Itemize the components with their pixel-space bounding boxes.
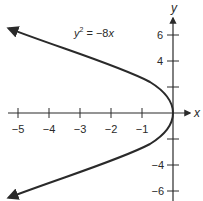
- equation-label: y2 = −8x: [73, 26, 114, 39]
- parabola-chart: −5 −4 −3 −2 −1 6 4 −4 −6 y x y2 = −8x: [0, 0, 203, 201]
- x-tick-label: −1: [136, 123, 149, 135]
- x-tick-label: −3: [74, 123, 87, 135]
- y-tick-label: 4: [157, 55, 163, 67]
- x-tick-labels: −5 −4 −3 −2 −1: [12, 123, 149, 135]
- x-tick-label: −2: [105, 123, 118, 135]
- x-tick-label: −5: [12, 123, 25, 135]
- x-axis-label: x: [193, 106, 201, 120]
- y-tick-label: 6: [157, 29, 163, 41]
- y-axis-label: y: [170, 1, 178, 15]
- y-tick-label: −6: [151, 185, 164, 197]
- y-tick-label: −4: [151, 159, 164, 171]
- x-tick-label: −4: [43, 123, 56, 135]
